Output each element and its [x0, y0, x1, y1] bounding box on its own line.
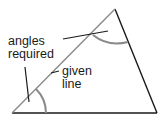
triangle-right-side [115, 9, 157, 113]
angles-required-label: angles required [8, 35, 54, 61]
angles-required-line2: required [8, 48, 54, 61]
angle-arc-top [93, 35, 128, 43]
given-line-label: given line [62, 65, 92, 91]
given-line [12, 9, 115, 113]
angles-required-leader [25, 67, 29, 102]
given-line-line2: line [62, 78, 92, 91]
angle-arc-bottom-left [36, 89, 46, 113]
